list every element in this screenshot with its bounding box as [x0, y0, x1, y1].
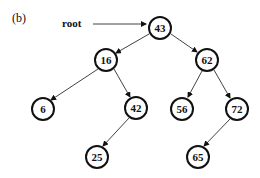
tree-node-56: 56 [170, 97, 194, 121]
tree-node-62: 62 [195, 48, 219, 72]
tree-node-25: 25 [85, 145, 109, 169]
edge-42-25 [103, 118, 129, 146]
edge-43-16 [116, 34, 149, 53]
tree-node-42: 42 [124, 96, 148, 120]
tree-node-43: 43 [148, 16, 172, 40]
edge-43-62 [171, 34, 197, 52]
edge-16-42 [114, 69, 130, 97]
edge-16-6 [51, 69, 98, 100]
edge-72-65 [204, 119, 230, 146]
tree-node-72: 72 [225, 97, 249, 121]
panel-label: (b) [12, 11, 26, 26]
edge-62-72 [214, 70, 230, 98]
tree-node-16: 16 [94, 48, 118, 72]
tree-edges-layer [0, 0, 260, 178]
tree-node-6: 6 [31, 97, 55, 121]
tree-node-65: 65 [186, 145, 210, 169]
root-pointer-label: root [62, 17, 81, 29]
edge-62-56 [188, 71, 202, 97]
